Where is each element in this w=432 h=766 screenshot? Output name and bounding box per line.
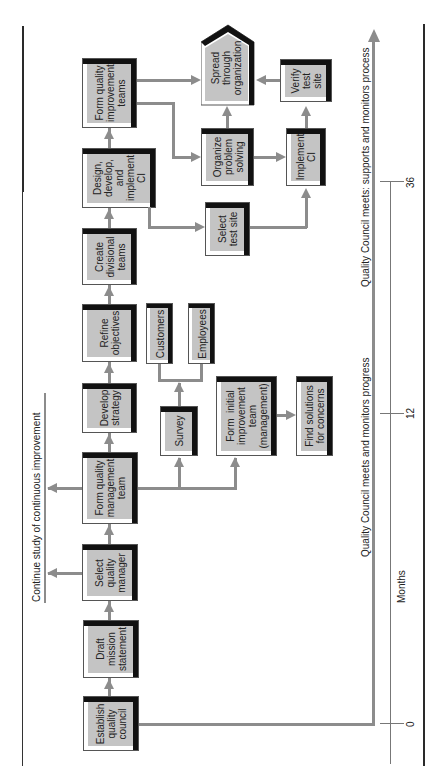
box-label: Create divisional teams xyxy=(93,236,126,277)
box-label: Select quality manager xyxy=(94,553,127,592)
council-supports-label: Quality Council meets: supports and moni… xyxy=(360,47,371,287)
arrow-up-icon xyxy=(104,434,114,444)
box-shadow xyxy=(271,377,276,455)
box-label: Form quality improvement teams xyxy=(93,64,126,122)
frame-left-rule-bottom xyxy=(22,190,23,766)
connector xyxy=(138,487,236,490)
box-implement-ci: Implement CI xyxy=(286,128,326,186)
box-employees: Employees xyxy=(188,303,215,364)
box-shadow xyxy=(132,545,137,600)
timeline-axis-label: Months xyxy=(396,570,407,603)
arrow-right-icon xyxy=(191,75,201,85)
council-progress-label: Quality Council meets and monitors progr… xyxy=(360,357,371,557)
timeline-tick-0 xyxy=(380,723,404,724)
box-shadow xyxy=(150,149,155,207)
arrow-up-icon xyxy=(368,29,380,42)
arrow-up-icon xyxy=(104,679,114,689)
box-label: Select test site xyxy=(217,212,239,246)
box-shadow xyxy=(327,377,332,455)
arrow-up-icon xyxy=(301,106,311,116)
box-organize-problem-solving: Organize problem solving xyxy=(201,128,254,186)
arrow-up-icon xyxy=(104,602,114,612)
box-select-test-site: Select test site xyxy=(205,202,250,256)
arrow-up-icon xyxy=(174,382,184,392)
box-shadow xyxy=(133,697,138,750)
box-draft-mission-statement: Draft mission statement xyxy=(83,620,139,678)
arrow-left-icon xyxy=(47,483,57,493)
arrow-up-icon xyxy=(104,209,114,219)
box-label: Verify test site xyxy=(290,68,323,93)
arrow-up-icon xyxy=(104,363,114,373)
arrow-up-icon xyxy=(301,188,311,198)
box-shadow xyxy=(131,59,136,127)
box-shadow xyxy=(326,60,331,101)
box-shadow xyxy=(244,203,249,255)
frame-left-rule xyxy=(22,26,24,192)
continue-study-label: Continue study of continuous improvement xyxy=(31,412,42,602)
connector xyxy=(250,226,307,229)
arrow-up-icon xyxy=(174,457,184,467)
box-shadow xyxy=(131,229,136,284)
timeline-tick-36 xyxy=(380,181,404,182)
box-develop-strategy: Develop strategy xyxy=(82,383,137,433)
connector xyxy=(137,79,194,82)
box-label: Organize problem solving xyxy=(211,137,244,178)
connector xyxy=(264,79,280,82)
arrow-up-icon xyxy=(104,525,114,535)
spread-label-wrap: Spread through organization xyxy=(201,34,251,102)
arrow-left-icon xyxy=(256,75,266,85)
box-label: Develop strategy xyxy=(99,390,121,427)
box-create-divisional-teams: Create divisional teams xyxy=(82,228,137,285)
box-refine-objectives: Refine objectives xyxy=(82,304,137,362)
box-shadow xyxy=(131,305,136,361)
arrow-right-icon xyxy=(195,222,205,232)
box-shadow xyxy=(248,129,253,185)
box-customers: Customers xyxy=(146,303,173,364)
box-form-initial-improvement-team: Form initial improvement team (managemen… xyxy=(216,376,277,456)
box-label: Implement CI xyxy=(295,134,317,181)
connector xyxy=(148,226,198,229)
box-shadow xyxy=(320,129,325,185)
box-shadow xyxy=(210,304,214,363)
arrow-up-icon xyxy=(104,129,114,139)
tick-label-36: 36 xyxy=(405,177,416,188)
box-label: Refine objectives xyxy=(99,311,121,355)
box-form-quality-management-team: Form quality management team xyxy=(82,452,138,524)
tick-label-0: 0 xyxy=(405,721,416,727)
box-select-quality-manager: Select quality manager xyxy=(82,544,138,601)
box-shadow xyxy=(133,621,138,677)
box-label: Customers xyxy=(154,309,165,357)
box-label: Survey xyxy=(174,415,185,446)
arrow-up-icon xyxy=(222,106,232,116)
arrow-up-icon xyxy=(104,286,114,296)
box-label: Establish quality council xyxy=(95,703,128,744)
connector xyxy=(158,379,202,382)
council-connector xyxy=(139,723,375,726)
box-shadow xyxy=(168,304,172,363)
connector xyxy=(158,364,161,382)
box-establish-quality-council: Establish quality council xyxy=(83,696,139,751)
box-shadow xyxy=(131,384,136,432)
box-label: Draft mission statement xyxy=(95,627,128,671)
connector xyxy=(200,364,203,382)
arrow-up-icon xyxy=(230,457,240,467)
arrow-left-icon xyxy=(47,568,57,578)
arrow-right-icon xyxy=(286,410,296,420)
tick-label-12: 12 xyxy=(405,408,416,419)
continue-study-bar xyxy=(44,393,46,603)
connector xyxy=(305,196,308,228)
timeline-axis xyxy=(390,181,391,764)
box-shadow xyxy=(192,407,197,455)
box-label: Design, develop, and implement CI xyxy=(92,155,147,201)
box-design-develop-implement-ci: Design, develop, and implement CI xyxy=(82,148,156,208)
council-arrow-shaft xyxy=(372,40,375,726)
arrow-right-icon xyxy=(276,152,286,162)
box-survey: Survey xyxy=(160,406,198,456)
box-label: Find solutions for concerns xyxy=(304,385,326,447)
connector xyxy=(137,102,175,105)
arrow-right-icon xyxy=(191,152,201,162)
connector xyxy=(148,207,151,228)
box-label: Form initial improvement team (managemen… xyxy=(225,383,269,448)
box-label: Employees xyxy=(196,309,207,358)
box-label: Form quality management team xyxy=(94,459,127,517)
